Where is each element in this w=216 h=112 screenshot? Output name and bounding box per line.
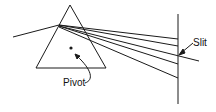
prism-diagram: Slit Pivot xyxy=(0,0,216,112)
pivot-label: Pivot xyxy=(63,77,85,88)
prism-triangle xyxy=(36,5,106,68)
incident-ray xyxy=(13,25,59,37)
pivot-point xyxy=(69,46,72,49)
slit-label: Slit xyxy=(193,37,207,48)
